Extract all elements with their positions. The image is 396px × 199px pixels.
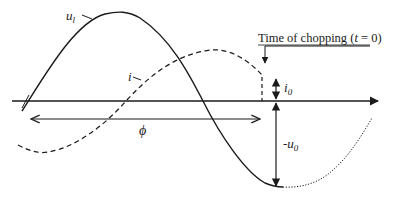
label-phi: ϕ bbox=[139, 123, 146, 138]
label-u0: -u0 bbox=[283, 136, 299, 153]
label-i: i bbox=[128, 69, 132, 84]
label-chopping: Time of chopping (t = 0) bbox=[258, 31, 382, 45]
voltage-curve-ul bbox=[22, 12, 283, 187]
label-i0: i0 bbox=[284, 80, 293, 97]
ul-leader bbox=[82, 15, 92, 19]
label-ul: ul bbox=[66, 8, 76, 25]
chopping-diagram: ul i Time of chopping (t = 0) i0 -u0 ϕ bbox=[0, 0, 396, 199]
i-leader bbox=[133, 77, 141, 80]
chopping-pointer bbox=[265, 46, 370, 60]
